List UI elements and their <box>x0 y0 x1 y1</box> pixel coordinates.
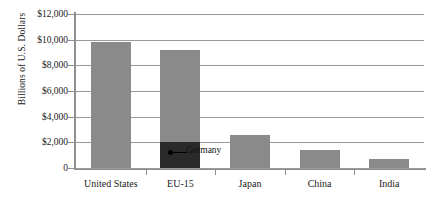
y-axis-tick-label: 0 <box>14 163 68 173</box>
y-axis-tick-mark <box>68 14 75 15</box>
germany-annotation-label: Germany <box>186 145 221 155</box>
germany-annotation: Germany <box>168 144 288 160</box>
y-axis-tick-mark <box>68 65 75 66</box>
x-axis-tick-mark <box>215 169 216 175</box>
y-axis-tick-mark <box>68 91 75 92</box>
x-axis-tick-mark <box>146 169 147 175</box>
y-axis-tick-label: $4,000 <box>14 112 68 122</box>
x-axis-tick-mark <box>285 169 286 175</box>
y-axis-tick-mark <box>68 142 75 143</box>
y-axis-tick-label: $8,000 <box>14 60 68 70</box>
y-axis-tick-label: $6,000 <box>14 86 68 96</box>
y-axis-tick-label: $12,000 <box>14 9 68 19</box>
gridline <box>76 14 424 15</box>
bar-india <box>369 159 409 168</box>
x-axis-label-india: India <box>329 178 432 189</box>
y-axis-tick-mark <box>68 117 75 118</box>
bar-chart: Billions of U.S. Dollars $12,000$10,000$… <box>0 0 432 203</box>
y-axis-tick-mark <box>68 168 75 169</box>
germany-leader-line <box>172 152 187 153</box>
y-axis-tick-label: $2,000 <box>14 137 68 147</box>
y-axis-tick-mark <box>68 40 75 41</box>
x-axis-tick-mark <box>354 169 355 175</box>
y-axis-tick-labels: $12,000$10,000$8,000$6,000$4,000$2,0000 <box>14 0 68 203</box>
bar-united-states <box>91 42 131 168</box>
y-axis-tick-label: $10,000 <box>14 35 68 45</box>
bar-china <box>300 150 340 168</box>
gridline <box>76 40 424 41</box>
gridline <box>76 168 424 169</box>
